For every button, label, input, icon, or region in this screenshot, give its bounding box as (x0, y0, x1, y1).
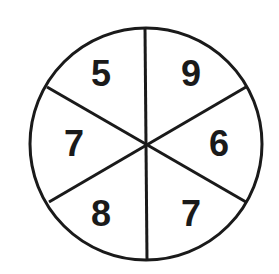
section-label-left: 7 (64, 123, 84, 164)
section-label-upper-right: 9 (181, 53, 201, 94)
section-label-lower-right: 7 (181, 193, 201, 234)
section-label-upper-left: 5 (91, 53, 111, 94)
section-label-right: 6 (209, 123, 229, 164)
spinner-diagram: 5 9 6 7 8 7 (0, 0, 279, 274)
section-label-lower-left: 8 (91, 193, 111, 234)
